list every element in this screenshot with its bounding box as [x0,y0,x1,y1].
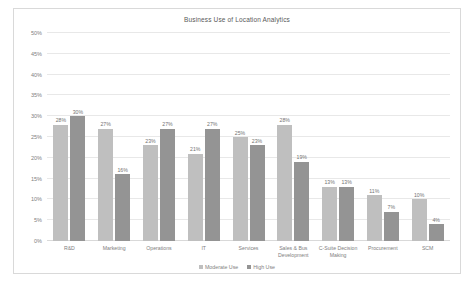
bar-group: 28%19% [271,33,316,241]
bar-slot: 27% [98,33,113,241]
bar-value-label: 21% [190,146,200,152]
bar[interactable] [384,212,399,241]
y-axis-tick-label: 50% [31,30,42,36]
bar-slot: 7% [384,33,399,241]
bar-group: 10%4% [405,33,450,241]
bar-value-label: 27% [100,121,110,127]
bar[interactable] [98,129,113,241]
bar-slot: 21% [188,33,203,241]
bar[interactable] [294,162,309,241]
plot-area: 28%30%27%16%23%27%21%27%25%23%28%19%13%1… [47,33,450,241]
chart-legend: Moderate UseHigh Use [14,264,460,270]
bar-slot: 16% [115,33,130,241]
bar[interactable] [115,174,130,241]
y-axis-tick-label: 5% [34,217,42,223]
bar[interactable] [429,224,444,241]
bar-value-label: 16% [117,167,127,173]
bar-value-label: 27% [162,121,172,127]
bar-slot: 11% [367,33,382,241]
bar-slot: 13% [339,33,354,241]
bar-value-label: 10% [414,192,424,198]
chart-container: Business Use of Location Analytics 0%5%1… [13,8,461,274]
legend-item[interactable]: High Use [247,264,275,270]
y-axis-tick-label: 20% [31,155,42,161]
bar-slot: 13% [322,33,337,241]
bar[interactable] [188,154,203,241]
y-axis: 0%5%10%15%20%25%30%35%40%45%50% [14,33,45,241]
bar[interactable] [233,137,248,241]
bar[interactable] [250,145,265,241]
legend-swatch-icon [247,265,251,269]
legend-item[interactable]: Moderate Use [199,264,238,270]
x-axis-tick-label: Sales & Bus Development [271,245,316,259]
bar[interactable] [367,195,382,241]
bar-group: 28%30% [47,33,92,241]
x-axis-tick-label: IT [181,245,226,259]
x-axis-tick-label: Marketing [92,245,137,259]
y-axis-tick-label: 45% [31,51,42,57]
y-axis-tick-label: 15% [31,176,42,182]
y-axis-tick-label: 0% [34,238,42,244]
bar-group: 11%7% [360,33,405,241]
legend-label: Moderate Use [205,264,238,270]
bar[interactable] [205,129,220,241]
bar[interactable] [412,199,427,241]
bar-value-label: 23% [252,138,262,144]
bar-value-label: 27% [207,121,217,127]
bar-group: 25%23% [226,33,271,241]
bar-slot: 27% [205,33,220,241]
bar[interactable] [339,187,354,241]
y-axis-tick-label: 25% [31,134,42,140]
y-axis-tick-label: 10% [31,196,42,202]
bars-layer: 28%30%27%16%23%27%21%27%25%23%28%19%13%1… [47,33,450,241]
legend-swatch-icon [199,265,203,269]
bar-slot: 30% [70,33,85,241]
x-axis-tick-label: R&D [47,245,92,259]
bar[interactable] [53,125,68,241]
bar-group: 13%13% [316,33,361,241]
bar[interactable] [322,187,337,241]
bar-slot: 23% [250,33,265,241]
bar-value-label: 28% [56,117,66,123]
x-axis-tick-label: C-Suite Decision Making [316,245,361,259]
x-axis-tick-label: Procurement [360,245,405,259]
x-axis-tick-label: Services [226,245,271,259]
bar[interactable] [277,125,292,241]
x-axis: R&DMarketingOperationsITServicesSales & … [47,245,450,259]
bar-value-label: 11% [369,188,379,194]
y-axis-tick-label: 30% [31,113,42,119]
bar-group: 23%27% [137,33,182,241]
bar-group: 21%27% [181,33,226,241]
y-axis-tick-label: 40% [31,72,42,78]
bar[interactable] [143,145,158,241]
bar-slot: 23% [143,33,158,241]
bar-slot: 28% [277,33,292,241]
bar-value-label: 28% [280,117,290,123]
bar-value-label: 7% [388,204,396,210]
bar-slot: 28% [53,33,68,241]
bar-value-label: 19% [297,154,307,160]
bar-value-label: 30% [73,109,83,115]
legend-label: High Use [253,264,275,270]
bar-value-label: 23% [145,138,155,144]
bar-slot: 27% [160,33,175,241]
bar-slot: 19% [294,33,309,241]
bar-slot: 4% [429,33,444,241]
y-axis-tick-label: 35% [31,92,42,98]
bar-value-label: 4% [432,217,440,223]
x-axis-tick-label: SCM [405,245,450,259]
bar-value-label: 13% [341,179,351,185]
bar-slot: 25% [233,33,248,241]
x-axis-tick-label: Operations [137,245,182,259]
bar[interactable] [70,116,85,241]
bar-value-label: 13% [324,179,334,185]
bar-group: 27%16% [92,33,137,241]
bar-value-label: 25% [235,130,245,136]
bar-slot: 10% [412,33,427,241]
chart-title: Business Use of Location Analytics [14,16,460,23]
bar[interactable] [160,129,175,241]
